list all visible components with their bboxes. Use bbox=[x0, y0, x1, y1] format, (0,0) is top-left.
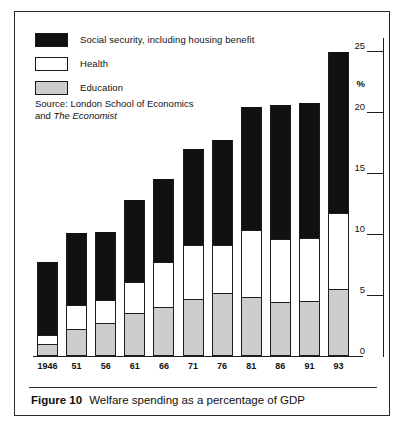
bar-segment-health-93 bbox=[328, 213, 349, 289]
bar-51 bbox=[66, 233, 87, 356]
bar-segment-health-81 bbox=[241, 230, 262, 297]
bar-segment-social-security-66 bbox=[153, 179, 174, 262]
bar-segment-education-71 bbox=[183, 299, 204, 356]
y-axis-line bbox=[383, 38, 384, 357]
bar-segment-health-61 bbox=[124, 282, 145, 314]
bar-86 bbox=[270, 105, 291, 356]
bar-segment-health-76 bbox=[212, 245, 233, 293]
x-axis-label-93: 93 bbox=[321, 361, 356, 371]
percent-symbol: % bbox=[349, 78, 365, 89]
bar-segment-health-66 bbox=[153, 262, 174, 307]
bar-segment-health-86 bbox=[270, 239, 291, 302]
bar-segment-education-81 bbox=[241, 297, 262, 356]
y-axis-label-0: 0 bbox=[349, 345, 365, 356]
bar-segment-social-security-51 bbox=[66, 233, 87, 305]
bar-segment-health-56 bbox=[95, 300, 116, 323]
bar-segment-health-71 bbox=[183, 245, 204, 299]
bar-segment-social-security-76 bbox=[212, 140, 233, 245]
bar-segment-education-61 bbox=[124, 313, 145, 356]
bar-segment-health-51 bbox=[66, 305, 87, 329]
bar-71 bbox=[183, 149, 204, 356]
y-axis-label-5: 5 bbox=[349, 284, 365, 295]
bar-segment-social-security-91 bbox=[299, 103, 320, 237]
y-axis-label-10: 10 bbox=[349, 223, 365, 234]
bar-61 bbox=[124, 200, 145, 356]
bar-segment-education-51 bbox=[66, 329, 87, 356]
figure-number: Figure 10 bbox=[31, 394, 82, 406]
bar-segment-social-security-71 bbox=[183, 149, 204, 245]
bar-segment-social-security-56 bbox=[95, 232, 116, 300]
bar-segment-education-56 bbox=[95, 323, 116, 356]
bar-segment-education-66 bbox=[153, 307, 174, 356]
y-axis-label-25: 25 bbox=[349, 40, 365, 51]
bar-segment-education-86 bbox=[270, 302, 291, 356]
bar-76 bbox=[212, 140, 233, 356]
bar-segment-social-security-93 bbox=[328, 52, 349, 213]
y-axis-label-15: 15 bbox=[349, 162, 365, 173]
y-axis-label-20: 20 bbox=[349, 101, 365, 112]
bar-segment-social-security-1946 bbox=[37, 262, 58, 335]
figure-caption: Figure 10Welfare spending as a percentag… bbox=[31, 394, 305, 406]
bar-81 bbox=[241, 107, 262, 356]
bars-layer bbox=[15, 12, 390, 387]
bar-66 bbox=[153, 179, 174, 356]
bar-segment-health-91 bbox=[299, 238, 320, 301]
bar-1946 bbox=[37, 262, 58, 356]
bar-91 bbox=[299, 103, 320, 356]
bar-segment-social-security-61 bbox=[124, 200, 145, 282]
bar-segment-education-91 bbox=[299, 301, 320, 356]
y-axis-tick-20 bbox=[367, 112, 383, 113]
y-axis-tick-10 bbox=[367, 234, 383, 235]
figure-frame: Social security, including housing benef… bbox=[14, 11, 390, 416]
bar-segment-social-security-86 bbox=[270, 105, 291, 239]
bar-93 bbox=[328, 52, 349, 356]
bar-segment-education-93 bbox=[328, 289, 349, 356]
bar-segment-education-76 bbox=[212, 293, 233, 356]
bar-segment-social-security-81 bbox=[241, 107, 262, 230]
bar-segment-education-1946 bbox=[37, 344, 58, 356]
y-axis-tick-25 bbox=[367, 51, 383, 52]
x-axis-line bbox=[33, 356, 363, 357]
bar-segment-health-1946 bbox=[37, 335, 58, 344]
caption-divider bbox=[29, 387, 377, 388]
bar-56 bbox=[95, 232, 116, 356]
chart-plot-area: 1946515661667176818691932520151050 % bbox=[15, 12, 390, 387]
y-axis-tick-15 bbox=[367, 173, 383, 174]
figure-caption-text: Welfare spending as a percentage of GDP bbox=[89, 394, 305, 406]
y-axis-tick-5 bbox=[367, 295, 383, 296]
